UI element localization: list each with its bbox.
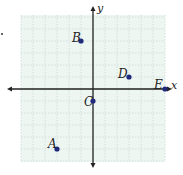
point-label-c: C bbox=[84, 96, 93, 108]
stray-dot bbox=[1, 33, 3, 35]
y-axis-bottom-arrow-icon bbox=[91, 163, 96, 168]
x-axis-label: x bbox=[171, 80, 177, 91]
point-label-a: A bbox=[48, 138, 57, 150]
point-label-e: E bbox=[154, 79, 163, 91]
x-axis-left-arrow-icon bbox=[7, 87, 12, 92]
point-label-d: D bbox=[118, 68, 128, 80]
y-axis-label: y bbox=[97, 3, 103, 14]
point-label-b: B bbox=[72, 32, 81, 44]
point-e bbox=[162, 86, 167, 91]
coordinate-plane: y x A B C D E bbox=[0, 0, 183, 175]
y-axis-top-arrow-icon bbox=[91, 6, 96, 11]
